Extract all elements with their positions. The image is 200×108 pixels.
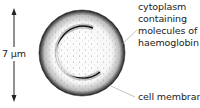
cytoplasm-label-line: containing (138, 13, 199, 25)
dimension-label: 7 µm (2, 47, 26, 61)
cytoplasm-label-line: haemoglobin (138, 37, 199, 49)
cell-membrane-label: cell membrane (138, 91, 200, 103)
cytoplasm-label-line: cytoplasm (138, 1, 199, 13)
red-blood-cell (39, 10, 125, 96)
cytoplasm-label: cytoplasm containing molecules of haemog… (138, 1, 199, 49)
cytoplasm-label-line: molecules of (138, 25, 199, 37)
leader-membrane (111, 86, 135, 97)
